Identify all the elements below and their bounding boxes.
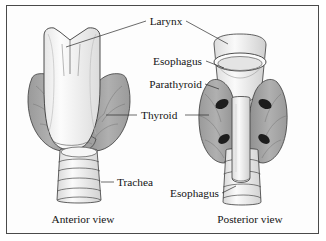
esophagus-body [232,97,250,183]
anatomical-illustration: Larynx Esophagus Parathyroid Thyroid Tra… [0,0,326,241]
caption-anterior-view: Anterior view [51,213,115,225]
figure-container: Larynx Esophagus Parathyroid Thyroid Tra… [0,0,326,241]
label-larynx: Larynx [150,15,183,27]
label-esophagus-top: Esophagus [153,55,202,67]
esophagus-tube [232,97,250,183]
anterior-specimen [28,28,130,203]
caption-posterior-view: Posterior view [217,213,283,225]
label-parathyroid: Parathyroid [149,78,202,90]
label-thyroid: Thyroid [141,109,178,121]
label-esophagus-bottom: Esophagus [170,187,219,199]
leader-larynx-right [186,21,228,44]
anterior-trachea [57,147,101,203]
label-trachea: Trachea [117,176,153,188]
leader-larynx-left [66,21,146,47]
thyroid-cartilage [44,28,100,150]
anterior-larynx [44,28,100,150]
esophagus-opening-lumen [218,57,262,71]
posterior-specimen [199,34,287,205]
trachea-ring-1 [61,147,97,157]
